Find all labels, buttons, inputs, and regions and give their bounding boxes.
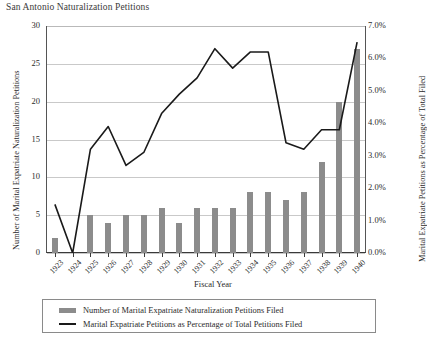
x-axis-tick: [90, 253, 91, 257]
y-axis-right-tick-label: 1.0%: [368, 215, 412, 225]
y-axis-left-tick-label: 15: [0, 134, 40, 144]
y-axis-left-tick-label: 25: [0, 58, 40, 68]
y-axis-right-tick-label: 3.0%: [368, 150, 412, 160]
chart-title: San Antonio Naturalization Petitions: [6, 2, 149, 12]
x-axis-tick: [55, 253, 56, 257]
chart-legend: Number of Marital Expatriate Naturalizat…: [42, 299, 376, 333]
legend-bar-swatch-icon: [59, 308, 76, 313]
x-axis-tick: [144, 253, 145, 257]
y-axis-left-tick-label: 20: [0, 96, 40, 106]
x-axis-tick: [233, 253, 234, 257]
y-axis-left-tick-label: 10: [0, 171, 40, 181]
x-axis-tick: [162, 253, 163, 257]
x-axis-tick: [250, 253, 251, 257]
y-axis-left-tick-label: 0: [0, 247, 40, 257]
y-axis-right-tick-label: 6.0%: [368, 52, 412, 62]
y-axis-left-tick-label: 30: [0, 20, 40, 30]
y-axis-right-tick-label: 4.0%: [368, 117, 412, 127]
x-axis-tick: [179, 253, 180, 257]
x-axis-tick: [286, 253, 287, 257]
y-axis-left-tick-label: 5: [0, 209, 40, 219]
x-axis-tick: [339, 253, 340, 257]
y-axis-right-tick-label: 2.0%: [368, 182, 412, 192]
x-axis-tick: [322, 253, 323, 257]
y-axis-right-tick-label: 7.0%: [368, 20, 412, 30]
x-axis-tick: [108, 253, 109, 257]
legend-item-line: Marital Expatriate Petitions as Percenta…: [43, 317, 375, 331]
y-axis-right-tick-label: 0.0%: [368, 247, 412, 257]
x-axis-tick: [357, 253, 358, 257]
legend-line-swatch-icon: [59, 323, 76, 325]
y-axis-right-title: Marital Expatriate Petitions as Percenta…: [418, 76, 427, 262]
legend-bar-label: Number of Marital Expatriate Naturalizat…: [83, 306, 283, 315]
line-series: [46, 26, 366, 253]
x-axis-tick: [268, 253, 269, 257]
line-path: [55, 42, 357, 253]
y-axis-right-tick-label: 5.0%: [368, 85, 412, 95]
x-axis-tick: [73, 253, 74, 257]
x-axis-tick: [304, 253, 305, 257]
legend-line-label: Marital Expatriate Petitions as Percenta…: [83, 320, 302, 329]
legend-item-bars: Number of Marital Expatriate Naturalizat…: [43, 303, 375, 317]
x-axis-tick: [197, 253, 198, 257]
x-axis-tick: [126, 253, 127, 257]
x-axis-tick: [215, 253, 216, 257]
gridline: [47, 253, 365, 254]
